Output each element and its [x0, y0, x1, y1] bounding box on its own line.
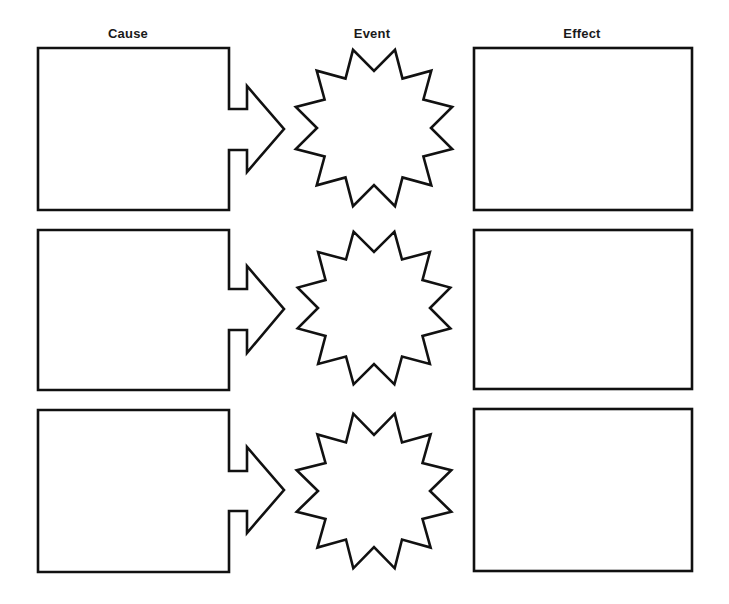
event-starburst[interactable]: [296, 50, 452, 206]
diagram-row: [38, 48, 692, 210]
diagram-row: [38, 409, 692, 572]
cause-box-with-arrow[interactable]: [38, 410, 284, 572]
event-starburst[interactable]: [298, 232, 451, 385]
cause-event-effect-diagram: [0, 0, 729, 604]
effect-box[interactable]: [474, 48, 692, 210]
event-starburst[interactable]: [297, 414, 452, 569]
cause-box-with-arrow[interactable]: [38, 230, 284, 390]
effect-box[interactable]: [474, 230, 692, 389]
cause-box-with-arrow[interactable]: [38, 48, 284, 210]
effect-box[interactable]: [474, 409, 692, 571]
diagram-row: [38, 230, 692, 390]
